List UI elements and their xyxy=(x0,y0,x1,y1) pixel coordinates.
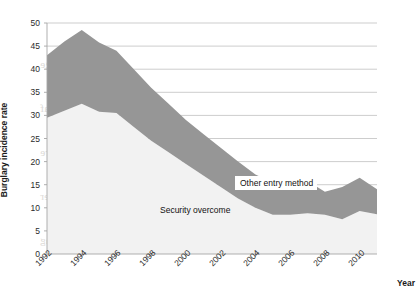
y-tick-label: 30 xyxy=(18,110,40,120)
x-axis-title: Year xyxy=(397,278,415,288)
y-tick-label: 25 xyxy=(18,134,40,144)
y-tick-label: 20 xyxy=(18,157,40,167)
y-axis-title: Burglary incidence rate xyxy=(0,103,9,197)
y-tick-label: 15 xyxy=(18,180,40,190)
y-tick-label: 5 xyxy=(18,226,40,236)
y-tick-label: 50 xyxy=(18,18,40,28)
annotation-security-overcome: Security overcome xyxy=(160,205,230,215)
y-tick-label: 45 xyxy=(18,41,40,51)
annotation-other-entry-method: Other entry method xyxy=(235,176,317,190)
y-tick-label: 40 xyxy=(18,64,40,74)
y-tick-label: 35 xyxy=(18,87,40,97)
y-tick-label: 10 xyxy=(18,203,40,213)
burglary-incidence-area-chart: the reverse of the printed pagefaint sho… xyxy=(0,0,419,302)
